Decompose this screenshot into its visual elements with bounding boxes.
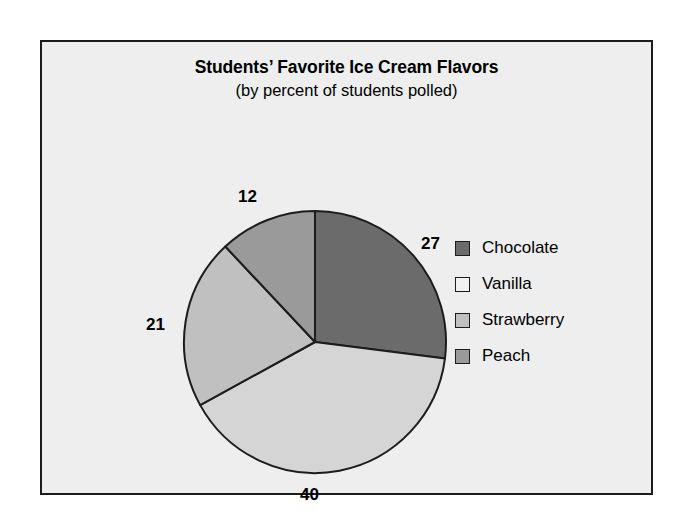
chart-title-block: Students’ Favorite Ice Cream Flavors (by…	[42, 57, 651, 101]
legend-item-strawberry: Strawberry	[455, 302, 645, 338]
pie-chart-figure: Students’ Favorite Ice Cream Flavors (by…	[0, 0, 694, 529]
pie-label-peach: 12	[238, 187, 257, 207]
pie-slice-vanilla	[200, 342, 445, 473]
legend-item-label: Strawberry	[482, 310, 564, 330]
legend-item-label: Vanilla	[482, 274, 532, 294]
chart-legend: ChocolateVanillaStrawberryPeach	[455, 230, 645, 374]
legend-swatch-icon-chocolate	[455, 241, 470, 256]
pie-label-chocolate: 27	[421, 234, 440, 254]
legend-item-chocolate: Chocolate	[455, 230, 645, 266]
legend-swatch-icon-vanilla	[455, 277, 470, 292]
pie-slice-group	[184, 211, 446, 473]
chart-frame-border: Students’ Favorite Ice Cream Flavors (by…	[40, 40, 653, 495]
pie-slice-peach	[225, 211, 315, 342]
legend-swatch-icon-peach	[455, 349, 470, 364]
pie-slice-strawberry	[184, 247, 315, 406]
legend-item-peach: Peach	[455, 338, 645, 374]
legend-swatch-icon-strawberry	[455, 313, 470, 328]
page-title: Students’ Favorite Ice Cream Flavors	[42, 57, 651, 79]
legend-item-label: Chocolate	[482, 238, 559, 258]
pie-label-vanilla: 40	[300, 485, 319, 505]
chart-subtitle: (by percent of students polled)	[42, 80, 651, 101]
pie-label-strawberry: 21	[146, 315, 165, 335]
legend-item-vanilla: Vanilla	[455, 266, 645, 302]
legend-item-label: Peach	[482, 346, 530, 366]
